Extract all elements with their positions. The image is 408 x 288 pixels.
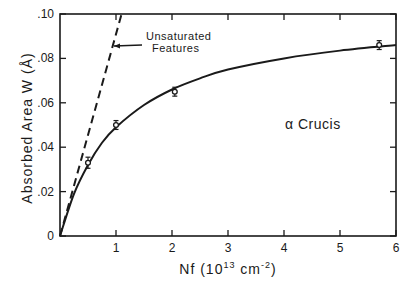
x-tick-label: 2	[169, 241, 176, 255]
data-points	[86, 41, 382, 169]
axis-ticks	[60, 14, 396, 236]
data-series	[60, 14, 396, 236]
plot-border	[60, 14, 396, 236]
x-tick-label: 3	[225, 241, 232, 255]
unsaturated-features-annotation: Unsaturated Features	[114, 30, 211, 54]
svg-text:Unsaturated: Unsaturated	[146, 30, 211, 42]
x-axis-label: Nf (1013 cm-2)	[179, 260, 276, 277]
x-tick-label: 4	[281, 241, 288, 255]
svg-text:Features: Features	[152, 42, 199, 54]
y-axis-label: Absorbed Area W (Å)	[19, 52, 35, 203]
y-tick-label: .08	[37, 51, 54, 65]
curve-of-growth-line	[60, 45, 396, 236]
y-tick-label: .10	[37, 7, 54, 21]
data-point	[377, 41, 382, 50]
y-tick-label: .04	[37, 140, 54, 154]
y-tick-label: .06	[37, 96, 54, 110]
x-tick-label: 5	[337, 241, 344, 255]
tick-labels: 1234560.02.04.06.08.10	[37, 7, 399, 255]
curve-of-growth-chart: 1234560.02.04.06.08.10 Absorbed Area W (…	[0, 0, 408, 288]
x-tick-label: 1	[113, 241, 120, 255]
star-name-label: α Crucis	[285, 116, 341, 132]
unsaturated-line	[60, 14, 122, 236]
y-tick-label: 0	[47, 229, 54, 243]
y-tick-label: .02	[37, 185, 54, 199]
plot-frame	[60, 14, 396, 236]
x-tick-label: 6	[393, 241, 400, 255]
